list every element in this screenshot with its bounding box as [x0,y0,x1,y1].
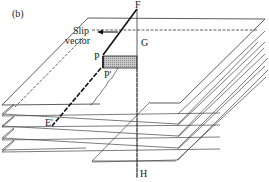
label-h: H [140,169,147,179]
fault-slip-diagram [0,0,269,182]
plane-4 [2,128,14,138]
label-p: P [94,52,100,62]
plane-5 [2,140,14,150]
plane-2 [2,104,14,114]
plane-3 [2,116,14,126]
stacked-planes [2,31,266,161]
panel-label: (b) [12,9,24,19]
label-f: F [135,0,141,10]
slip-label-line2: vector [65,36,90,46]
label-g: G [141,38,148,48]
displacement-block [103,56,137,68]
label-e-prime: E' [45,118,53,128]
label-p-prime: P' [104,70,111,80]
